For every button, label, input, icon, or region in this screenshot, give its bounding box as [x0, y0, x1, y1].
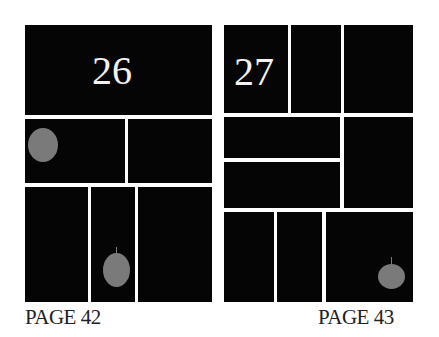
panel-row3-c — [326, 212, 413, 302]
marker-circle-icon — [103, 253, 130, 287]
marker-circle-icon — [28, 128, 58, 162]
panel-row2-top — [224, 117, 340, 158]
panel-row1-right — [344, 25, 413, 113]
marker-circle-icon — [378, 264, 405, 289]
panel-row2-right — [344, 117, 413, 208]
panel-row3-a — [224, 212, 274, 302]
panel-row2-bottom — [224, 162, 340, 208]
panel-row3-b — [277, 212, 322, 302]
page-label-right: PAGE 43 — [318, 305, 394, 330]
panel-row1-middle — [291, 25, 341, 113]
page-number-26: 26 — [92, 51, 132, 91]
page-number-27: 27 — [234, 52, 274, 92]
page-label-left: PAGE 42 — [25, 305, 101, 330]
panel-title-26: 26 — [25, 25, 212, 115]
panel-row2-right — [128, 119, 212, 183]
panel-row3-a — [25, 187, 88, 302]
panel-row3-c — [138, 187, 212, 302]
panel-title-27: 27 — [224, 25, 288, 113]
